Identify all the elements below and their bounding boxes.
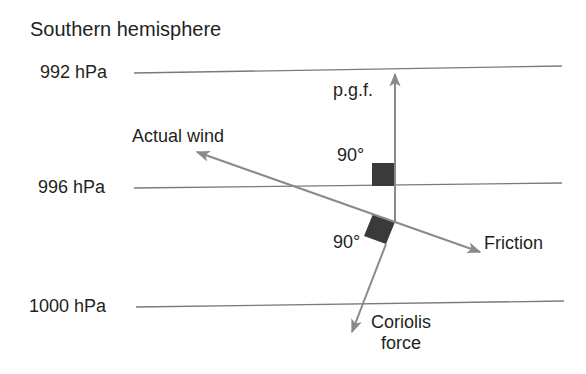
angle-label-coriolis: 90° [333,233,360,251]
coriolis-label-line2: force [366,334,436,352]
pgf-label: p.g.f. [333,81,373,99]
isobar-label-1000: 1000 hPa [29,297,106,315]
isobar-label-992: 992 hPa [40,63,107,81]
isobar-line-1000 [136,301,564,307]
friction-label: Friction [484,234,543,252]
isobar-line-996 [134,183,562,188]
coriolis-label: Coriolis force [366,313,436,352]
right-angle-marker-coriolis [364,214,395,244]
friction-arrow [395,222,480,252]
isobar-line-992 [134,66,562,73]
coriolis-label-line1: Coriolis [366,313,436,331]
right-angle-marker-pgf [372,163,394,186]
diagram-canvas: Southern hemisphere 992 hPa 996 hPa 1000… [0,0,586,374]
isobar-label-996: 996 hPa [38,178,105,196]
actual-wind-label: Actual wind [132,127,224,145]
diagram-title: Southern hemisphere [30,19,221,39]
angle-label-pgf: 90° [337,146,364,164]
